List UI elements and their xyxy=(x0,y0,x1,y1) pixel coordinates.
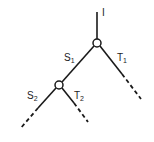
label-s2: S2 xyxy=(27,90,38,102)
node-1 xyxy=(93,39,101,47)
edge-t1-dashed xyxy=(122,74,141,99)
edge-s2-dashed xyxy=(20,108,38,129)
tree-diagram: I S1 T1 S2 T2 xyxy=(0,0,154,142)
edge-t2-dashed xyxy=(74,103,88,122)
label-t1: T1 xyxy=(117,52,127,64)
label-t2: T2 xyxy=(74,90,84,102)
label-s1: S1 xyxy=(64,52,75,64)
label-root: I xyxy=(102,7,105,18)
edge-s2-solid xyxy=(38,88,56,108)
edge-t2-solid xyxy=(62,88,74,103)
node-2 xyxy=(55,81,63,89)
